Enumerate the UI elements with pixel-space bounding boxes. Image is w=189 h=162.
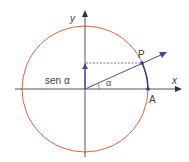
point-a-label: A (149, 95, 156, 105)
arc-ap (142, 63, 148, 89)
angle-arc (98, 83, 99, 89)
point-p (140, 61, 144, 65)
sine-arrow-icon (82, 63, 88, 69)
point-a (146, 87, 150, 91)
unit-circle-diagram (0, 0, 189, 162)
y-axis-label: y (70, 14, 75, 24)
radius-vector (85, 54, 163, 89)
x-axis-arrow-icon (175, 86, 182, 92)
x-axis-label: x (172, 76, 177, 86)
angle-label: α (106, 79, 111, 88)
y-axis-arrow-icon (82, 10, 88, 17)
point-p-label: P (138, 50, 145, 60)
sine-label: sen α (45, 76, 70, 86)
